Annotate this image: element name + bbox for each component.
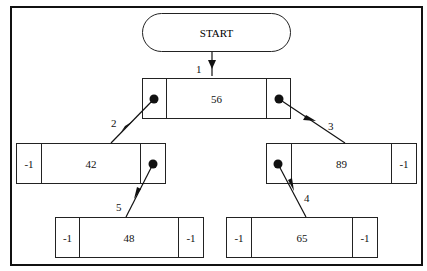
- edge-3-arrow: [279, 99, 345, 143]
- edge-label-4: 4: [304, 193, 310, 204]
- edge-label-2: 2: [111, 118, 117, 129]
- edge-label-5: 5: [116, 202, 122, 213]
- edge-label-1: 1: [196, 64, 202, 75]
- arrowhead-icon: [208, 60, 216, 69]
- edges-layer: [0, 0, 427, 271]
- edge-label-3: 3: [328, 121, 334, 132]
- edge-4-arrow: [278, 164, 306, 217]
- edge-2-arrow: [111, 99, 154, 143]
